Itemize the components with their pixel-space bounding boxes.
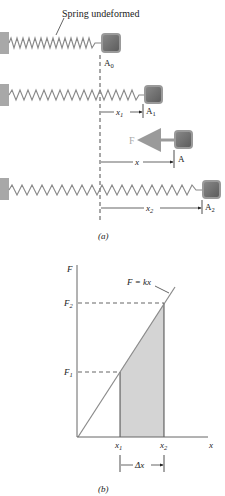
caption-b: (b) [98, 484, 109, 494]
label-a0: A0 [104, 58, 114, 69]
work-shaded-area [120, 303, 164, 437]
force-label: F [129, 135, 135, 146]
row-stretched-x2: x2 A2 [0, 178, 220, 214]
wall-icon [0, 32, 9, 54]
spring-icon [9, 90, 145, 100]
delta-x-label: Δx [134, 460, 144, 470]
y-axis-label: F [66, 264, 73, 274]
caption-a: (a) [98, 231, 109, 241]
y-tick-f1: F1 [63, 367, 73, 378]
figure-b-graph: F x F2 F1 x1 x2 F = kx Δx (b) [63, 264, 213, 494]
figure-a: Spring undeformed A0 x1 A1 F [0, 8, 220, 241]
y-tick-f2: F2 [63, 298, 74, 309]
wall-icon [0, 84, 9, 106]
row-stretched-x1: x1 A1 [0, 84, 162, 118]
row-general-x: F x A [101, 131, 192, 168]
annotation-leader-line [56, 18, 64, 35]
x-tick-x1: x1 [114, 440, 122, 451]
label-a1: A1 [146, 106, 156, 117]
x-axis-label: x [208, 440, 213, 450]
line-label-leader [155, 286, 169, 293]
block-a2-icon [203, 181, 220, 198]
spring-icon [9, 185, 203, 195]
block-a-icon [175, 131, 192, 148]
x-tick-x2: x2 [159, 440, 168, 451]
spring-compressed-icon [9, 38, 102, 48]
row-undeformed: Spring undeformed A0 [0, 8, 140, 69]
annotation-spring-undeformed: Spring undeformed [62, 8, 140, 19]
dimension-x-label: x [134, 157, 139, 167]
block-a1-icon [145, 86, 162, 103]
label-a2: A2 [205, 202, 215, 213]
block-a0-icon [102, 34, 120, 52]
line-label-f-kx: F = kx [126, 277, 151, 287]
wall-icon [0, 178, 9, 200]
spring-work-diagram: Spring undeformed A0 x1 A1 F [0, 0, 225, 496]
label-a: A [178, 154, 185, 164]
